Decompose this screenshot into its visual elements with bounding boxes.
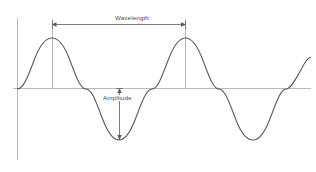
wave-diagram-canvas [0, 0, 316, 172]
wavelength-measure [52, 20, 187, 29]
wavelength-label: Wavelength [113, 15, 151, 21]
wave-diagram: Wavelength Amplitude [0, 0, 316, 172]
amplitude-label: Amplitude [101, 95, 134, 101]
